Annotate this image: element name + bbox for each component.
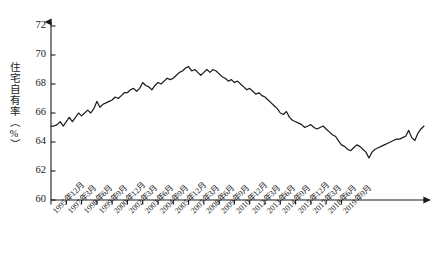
chart-figure: 住宅自有率（%） 60626466687072 1995年12月1997年3月1…: [0, 0, 445, 268]
y-tick-label: 70: [24, 48, 46, 59]
line-chart-canvas: [0, 0, 445, 268]
y-tick-label: 62: [24, 164, 46, 175]
y-axis-ticks: [51, 26, 56, 200]
y-axis: [51, 22, 56, 200]
y-tick-label: 66: [24, 106, 46, 117]
data-series-line: [51, 67, 424, 158]
y-tick-label: 72: [24, 19, 46, 30]
y-tick-label: 68: [24, 77, 46, 88]
y-tick-label: 64: [24, 135, 46, 146]
y-tick-label: 60: [24, 193, 46, 204]
